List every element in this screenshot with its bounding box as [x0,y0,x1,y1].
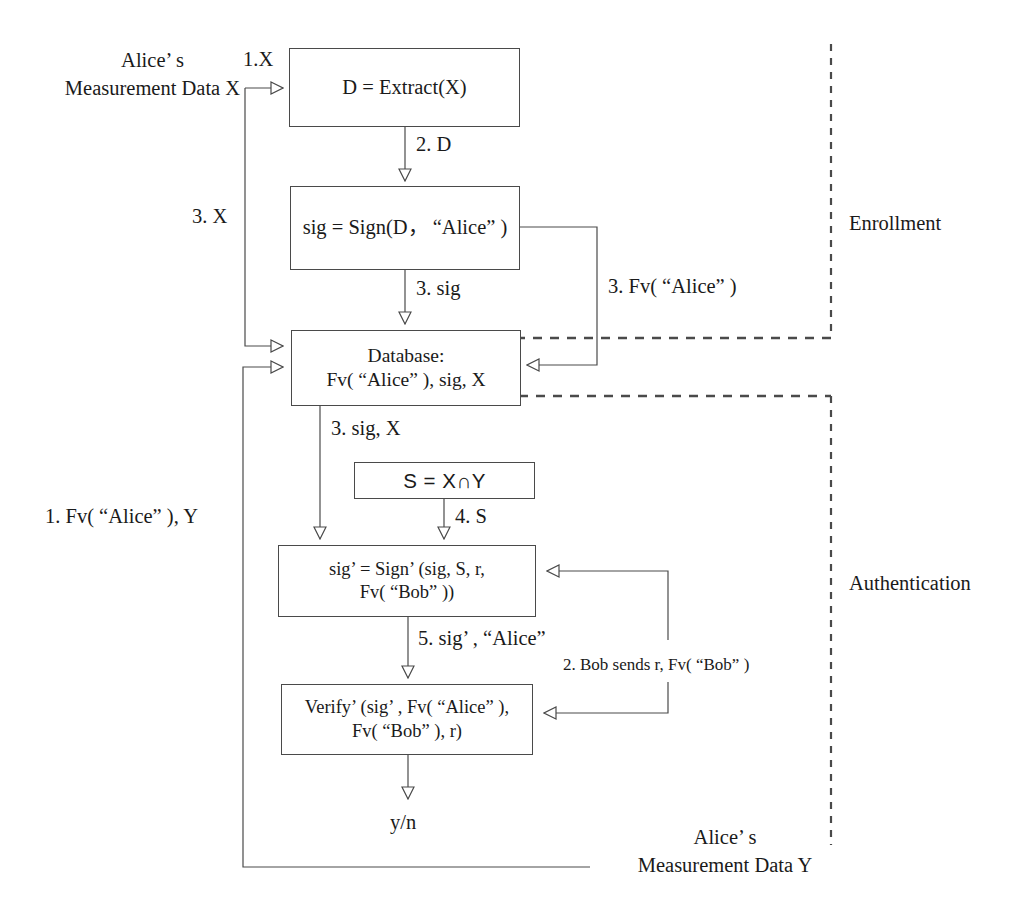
label-step-3-x: 3. X [192,205,227,228]
label-step-3-sig: 3. sig [416,277,460,300]
wire-3fv-alice-to-database [520,227,597,365]
box-sign-prime[interactable]: sig’ = Sign’ (sig, S, r, Fv( “Bob” )) [278,545,536,617]
label-step-3-sig-x: 3. sig, X [331,417,400,440]
wire-bob-to-verifyprime [544,682,668,713]
label-step-4-s: 4. S [455,505,487,528]
box-verify-prime[interactable]: Verify’ (sig’ , Fv( “Alice” ), Fv( “Bob”… [281,684,533,755]
label-step-1-fv-alice-y: 1. Fv( “Alice” ), Y [45,505,198,528]
box-extract[interactable]: D = Extract(X) [289,48,520,127]
box-database-label: Database: Fv( “Alice” ), sig, X [320,344,491,393]
box-sign-prime-label: sig’ = Sign’ (sig, S, r, Fv( “Bob” )) [323,558,491,604]
box-intersect-label: S = X∩Y [397,468,492,494]
diagram-canvas: D = Extract(X) sig = Sign(D， “Alice” ) D… [0,0,1022,923]
label-enrollment: Enrollment [849,212,941,235]
label-step-3-fv-alice: 3. Fv( “Alice” ) [608,275,737,298]
label-result-yn: y/n [390,811,416,834]
label-step-5-sig-prime-alice: 5. sig’ , “Alice” [418,627,546,650]
label-step-2-bob-sends: 2. Bob sends r, Fv( “Bob” ) [563,655,749,675]
wire-bob-to-signprime [547,571,668,575]
label-alice-measurement-data-x: Alice’ s Measurement Data X [60,47,245,102]
box-extract-label: D = Extract(X) [336,75,472,101]
label-authentication: Authentication [849,572,971,595]
wire-alice-y-to-database [243,367,590,867]
wire-3x-to-database [245,88,283,346]
box-database[interactable]: Database: Fv( “Alice” ), sig, X [291,330,521,406]
box-sign-label: sig = Sign(D， “Alice” ) [297,215,514,241]
label-step-2-d: 2. D [416,133,451,156]
box-sign[interactable]: sig = Sign(D， “Alice” ) [290,186,520,270]
box-intersect[interactable]: S = X∩Y [354,462,535,499]
box-verify-prime-label: Verify’ (sig’ , Fv( “Alice” ), Fv( “Bob”… [299,696,515,742]
label-step-1-x: 1.X [243,48,273,71]
label-alice-measurement-data-y: Alice’ s Measurement Data Y [600,824,850,879]
